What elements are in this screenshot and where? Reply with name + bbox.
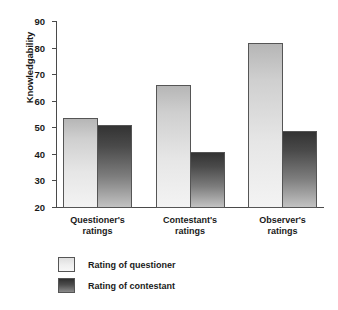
legend-swatch-contestant-icon <box>58 278 75 293</box>
x-axis-category-label: Observer'sratings <box>259 215 306 237</box>
legend-item-questioner: Rating of questioner <box>58 254 176 275</box>
chart-legend: Rating of questioner Rating of contestan… <box>58 254 176 296</box>
bar <box>190 152 225 208</box>
y-axis-tick-label: 50 <box>34 122 45 133</box>
bar <box>63 118 98 208</box>
y-axis-tick: 20 <box>52 207 56 208</box>
bar <box>156 85 191 208</box>
y-axis-tick-label: 40 <box>34 148 45 159</box>
y-axis-tick-label: 30 <box>34 175 45 186</box>
x-axis-category-label-line: ratings <box>70 226 125 237</box>
bar <box>248 43 283 208</box>
x-axis-category-label-line: Questioner's <box>70 215 125 226</box>
x-axis-category-label: Questioner'sratings <box>70 215 125 237</box>
y-axis-tick-label: 60 <box>34 95 45 106</box>
y-axis-tick: 80 <box>52 48 56 49</box>
y-axis-tick: 40 <box>52 154 56 155</box>
y-axis-tick: 90 <box>52 21 56 22</box>
y-axis-tick: 70 <box>52 74 56 75</box>
legend-label-contestant: Rating of contestant <box>88 281 175 291</box>
y-axis-tick-label: 80 <box>34 42 45 53</box>
y-axis-tick-label: 20 <box>34 202 45 213</box>
x-axis-category-label-line: Contestant's <box>163 215 217 226</box>
x-axis-category-label-line: Observer's <box>259 215 306 226</box>
y-axis-tick-label: 90 <box>34 16 45 27</box>
legend-label-questioner: Rating of questioner <box>88 260 176 270</box>
y-axis-tick: 60 <box>52 101 56 102</box>
y-axis-label: Knowledgability <box>24 0 35 143</box>
y-axis-tick-label: 70 <box>34 69 45 80</box>
legend-item-contestant: Rating of contestant <box>58 275 176 296</box>
x-axis-category-label-line: ratings <box>259 226 306 237</box>
y-axis-line <box>56 21 57 207</box>
x-axis-category-label: Contestant'sratings <box>163 215 217 237</box>
bar-chart: Knowledgability 2030405060708090 Questio… <box>0 0 338 310</box>
bar <box>97 125 132 208</box>
y-axis-tick: 30 <box>52 180 56 181</box>
y-axis-tick: 50 <box>52 127 56 128</box>
bar <box>282 131 317 208</box>
x-axis-category-label-line: ratings <box>163 226 217 237</box>
plot-area: 2030405060708090 Questioner'sratingsCont… <box>56 21 324 207</box>
legend-swatch-questioner-icon <box>58 257 75 272</box>
